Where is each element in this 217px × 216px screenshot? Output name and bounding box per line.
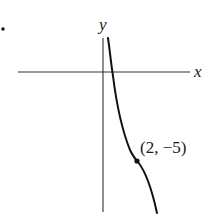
graph-svg: x y (2, −5) xyxy=(0,0,217,216)
y-axis-label: y xyxy=(97,15,107,34)
graph-figure: x y (2, −5) xyxy=(0,0,217,216)
function-curve xyxy=(108,38,157,213)
bullet-marker xyxy=(1,27,5,31)
point-label: (2, −5) xyxy=(140,138,186,157)
point-marker xyxy=(134,158,139,163)
x-axis-label: x xyxy=(193,62,202,81)
